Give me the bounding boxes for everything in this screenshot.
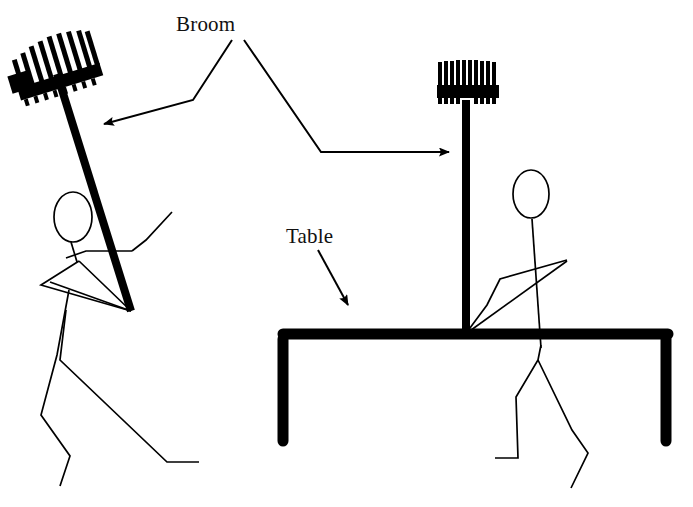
label-table: Table xyxy=(286,224,333,249)
left-figure-group xyxy=(6,25,199,486)
arrow-broom-to-left-broom xyxy=(104,40,232,124)
right-figure-lower-arm xyxy=(467,261,567,333)
right-figure-group xyxy=(437,60,588,488)
annotation-arrows xyxy=(104,40,449,305)
right-figure-legs xyxy=(495,345,588,488)
left-figure-legs xyxy=(41,290,199,486)
arrow-table-to-tabletop xyxy=(318,250,348,305)
right-figure-back-leg xyxy=(495,345,541,458)
diagram-canvas: Broom Table xyxy=(0,0,693,507)
right-broom xyxy=(437,60,499,334)
right-broom-head xyxy=(437,60,499,104)
right-figure-head xyxy=(513,170,549,218)
left-figure-neck xyxy=(71,242,77,262)
left-broom-head xyxy=(6,25,106,108)
right-broom-backing-bar xyxy=(437,85,499,98)
right-broom-bristles xyxy=(438,60,496,85)
diagram-artwork xyxy=(0,0,693,507)
left-figure-front-leg xyxy=(60,310,199,462)
left-figure-lower-arm xyxy=(50,282,131,311)
left-figure-upper-arm xyxy=(132,212,172,251)
right-figure-front-leg xyxy=(538,360,588,488)
left-figure-head xyxy=(54,192,92,242)
label-broom: Broom xyxy=(176,12,235,37)
table xyxy=(283,334,668,441)
arrow-broom-to-right-broom xyxy=(244,40,449,152)
